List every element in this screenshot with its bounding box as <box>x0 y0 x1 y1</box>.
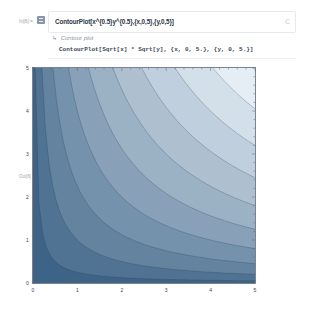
input-code[interactable]: ContourPlot[x^{0.5}y^{0.5},{x,0,5},{y,0,… <box>55 18 174 25</box>
interpreted-code-box[interactable]: ContourPlot[Sqrt[x] * Sqrt[y], {x, 0, 5.… <box>48 41 296 59</box>
x-tick-label: 3 <box>165 287 168 293</box>
y-tick-label: 3 <box>26 151 29 157</box>
x-tick-label: 4 <box>209 287 212 293</box>
input-label: In[6]:= <box>19 18 33 24</box>
x-tick-label: 1 <box>76 287 79 293</box>
x-tick-label: 2 <box>120 287 123 293</box>
x-tick-label: 5 <box>254 287 257 293</box>
cell-toggle-icon[interactable] <box>37 16 45 24</box>
y-tick-label: 1 <box>26 237 29 243</box>
y-tick-label: 4 <box>26 108 29 114</box>
input-cell[interactable]: ContourPlot[x^{0.5}y^{0.5},{x,0,5},{y,0,… <box>48 11 296 33</box>
interpreted-code[interactable]: ContourPlot[Sqrt[x] * Sqrt[y], {x, 0, 5.… <box>59 46 253 53</box>
contour-plot-graphic <box>31 66 257 285</box>
y-tick-label: 2 <box>26 194 29 200</box>
y-tick-label: 0 <box>26 280 29 286</box>
y-tick-label: 5 <box>26 65 29 71</box>
cell-menu-icon[interactable]: C <box>285 18 290 25</box>
contour-plot[interactable] <box>31 66 257 285</box>
x-tick-label: 0 <box>32 287 35 293</box>
natural-language-interpretation: ↳ Contour plot <box>52 34 93 41</box>
